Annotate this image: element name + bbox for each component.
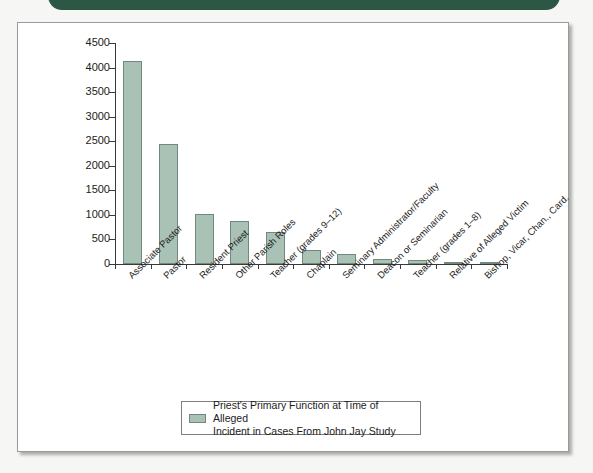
x-axis-tick-mark: [507, 264, 508, 269]
x-axis-tick-mark: [364, 264, 365, 269]
y-axis-tick-label: 3500: [86, 85, 110, 98]
legend-color-swatch: [189, 414, 206, 423]
y-axis-tick-label: 2500: [86, 134, 110, 147]
y-axis-tick-label: 0: [104, 257, 110, 270]
chart-figure-frame: 450040003500300025002000150010005000 Ass…: [17, 22, 569, 452]
y-axis-line: [115, 43, 116, 265]
y-axis-tick-label: 3000: [86, 110, 110, 123]
top-green-banner: [48, 0, 560, 10]
x-axis-tick-mark: [329, 264, 330, 269]
x-axis-category-label: Teacher (grades 1–8): [411, 209, 483, 281]
legend-label-line-2: Incident in Cases From John Jay Study: [213, 425, 396, 437]
x-axis-tick-mark: [186, 264, 187, 269]
x-axis-tick-mark: [151, 264, 152, 269]
y-axis-tick-label: 2000: [86, 159, 110, 172]
x-axis-tick-mark: [436, 264, 437, 269]
y-axis-tick-label: 1500: [86, 183, 110, 196]
chart-legend: Priest's Primary Function at Time of All…: [181, 401, 421, 435]
x-axis-tick-mark: [222, 264, 223, 269]
x-axis-tick-mark: [400, 264, 401, 269]
y-axis-tick-label: 4000: [86, 61, 110, 74]
bar: [195, 214, 214, 264]
bar: [123, 61, 142, 264]
legend-label-line-1: Priest's Primary Function at Time of All…: [213, 399, 378, 424]
y-axis-tick-label: 500: [92, 232, 110, 245]
x-axis-tick-mark: [115, 264, 116, 269]
x-axis-tick-mark: [293, 264, 294, 269]
x-axis-tick-mark: [471, 264, 472, 269]
legend-label: Priest's Primary Function at Time of All…: [213, 399, 413, 438]
x-axis-tick-mark: [258, 264, 259, 269]
bar-chart-plot-area: 450040003500300025002000150010005000 Ass…: [18, 23, 570, 453]
y-axis-tick-label: 1000: [86, 208, 110, 221]
y-axis-tick-label: 4500: [86, 36, 110, 49]
